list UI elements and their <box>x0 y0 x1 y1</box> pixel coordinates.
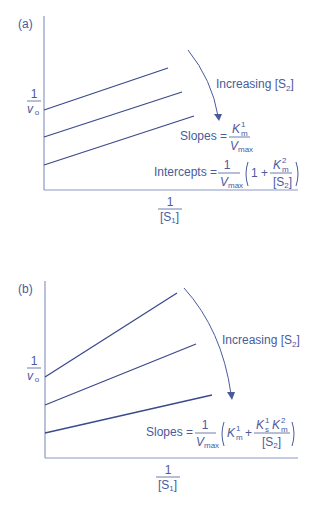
arrow-head-icon <box>227 392 235 400</box>
panel-a-slopes-formula: Slopes = K 1 m V max <box>180 120 253 154</box>
svg-text:K: K <box>256 418 265 432</box>
svg-text:K: K <box>232 122 241 136</box>
svg-text:max: max <box>228 181 243 190</box>
svg-text:K: K <box>227 426 236 440</box>
svg-text:o: o <box>35 375 40 384</box>
svg-text:o: o <box>35 108 40 117</box>
svg-text:2: 2 <box>282 156 287 165</box>
panel-a-x-axis-label: 1 [S1] <box>158 195 182 225</box>
plot-line-2 <box>44 92 182 137</box>
svg-text:m: m <box>236 433 243 442</box>
svg-text:1 +: 1 + <box>251 166 268 180</box>
svg-text:K: K <box>273 158 282 172</box>
plot-line-1 <box>44 68 168 110</box>
svg-text:v: v <box>27 369 34 383</box>
svg-text:1: 1 <box>224 158 231 172</box>
svg-text:max: max <box>204 441 219 450</box>
arrow-head-icon <box>214 114 222 121</box>
plot-line-3 <box>44 116 194 165</box>
panel-a-intercepts-formula: Intercepts = 1 V max 1 + K 2 m [S2] <box>154 156 298 190</box>
svg-text:Intercepts =: Intercepts = <box>154 165 217 179</box>
plot-line-1 <box>45 293 177 377</box>
svg-text:Increasing [S2]: Increasing [S2] <box>216 77 294 93</box>
svg-text:1: 1 <box>202 418 209 432</box>
svg-text:[S1]: [S1] <box>158 478 177 493</box>
svg-text:v: v <box>27 102 34 116</box>
svg-text:[S2]: [S2] <box>273 175 292 190</box>
panel-b-y-axis-label: 1 v o <box>27 354 41 384</box>
panel-b-slopes-formula: Slopes = 1 V max K 1 m + K 1 s K 2 m [S2… <box>146 416 294 450</box>
svg-text:1: 1 <box>265 416 270 425</box>
increasing-arrow <box>188 50 218 116</box>
lineweaver-burk-diagram: (a) 1 v o Increasing [S2] Slopes = K 1 m… <box>0 0 322 510</box>
svg-text:Slopes =: Slopes = <box>180 129 227 143</box>
panel-b-x-axis-label: 1 [S1] <box>156 463 180 493</box>
panel-b-arrow-label: Increasing [S2] <box>222 333 300 349</box>
svg-text:[S2]: [S2] <box>262 435 281 450</box>
svg-text:1: 1 <box>167 195 174 209</box>
svg-text:2: 2 <box>281 416 286 425</box>
svg-text:K: K <box>272 418 281 432</box>
svg-text:Increasing [S2]: Increasing [S2] <box>222 333 300 349</box>
svg-text:1: 1 <box>165 463 172 477</box>
svg-text:Slopes =: Slopes = <box>146 425 193 439</box>
plot-line-2 <box>45 344 196 405</box>
svg-text:max: max <box>238 145 253 154</box>
panel-b-label: (b) <box>18 282 33 296</box>
svg-text:1: 1 <box>236 424 241 433</box>
svg-text:1: 1 <box>241 120 246 129</box>
panel-a-label: (a) <box>18 17 33 31</box>
svg-text:1: 1 <box>31 354 38 368</box>
panel-a-arrow-label: Increasing [S2] <box>216 77 294 93</box>
panel-a-y-axis-label: 1 v o <box>27 87 41 117</box>
svg-text:1: 1 <box>31 87 38 101</box>
svg-text:[S1]: [S1] <box>160 210 179 225</box>
svg-text:+: + <box>245 426 252 440</box>
panel-b: (b) 1 v o Increasing [S2] Slopes = 1 V m… <box>18 281 300 493</box>
panel-a: (a) 1 v o Increasing [S2] Slopes = K 1 m… <box>18 16 298 225</box>
